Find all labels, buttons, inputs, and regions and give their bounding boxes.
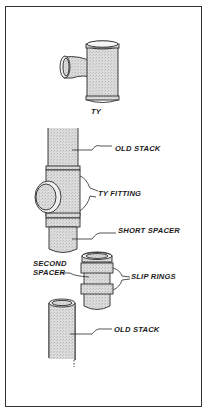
short-spacer-pipe [49, 227, 77, 253]
label-old-stack-top: OLD STACK [115, 145, 161, 153]
label-old-stack-bottom: OLD STACK [114, 326, 160, 334]
ty-fitting-icon [60, 41, 119, 103]
label-ty: TY [91, 108, 101, 116]
label-second-spacer-line2: SPACER [33, 269, 65, 277]
plumbing-illustration [0, 0, 208, 411]
old-stack-bottom-pipe [49, 299, 75, 367]
ty-fitting-installed [35, 166, 80, 227]
label-slip-rings: SLIP RINGS [131, 273, 176, 281]
old-stack-top-pipe [48, 128, 78, 168]
slip-ring-lower [81, 284, 113, 294]
label-ty-fitting: TY FITTING [98, 190, 141, 198]
label-second-spacer-line1: SECOND [33, 260, 67, 268]
second-spacer [81, 252, 113, 310]
slip-ring-upper [81, 263, 113, 273]
label-short-spacer: SHORT SPACER [118, 227, 180, 235]
